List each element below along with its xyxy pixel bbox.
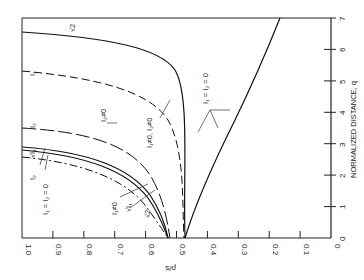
svg-text:5: 5	[338, 79, 347, 84]
svg-text:2: 2	[338, 173, 347, 178]
svg-text:0: 0	[338, 236, 347, 241]
rho-axis-label: ρ/s	[165, 264, 176, 273]
svg-text:0.9: 0.9	[54, 244, 63, 256]
svg-text:6: 6	[338, 47, 347, 52]
chart: 1.0 0.9 0.8 0.7 0.6 0.5 0.4 0.3 0.2 0.1 …	[0, 0, 364, 280]
svg-text:0: 0	[333, 244, 342, 249]
svg-text:4: 4	[338, 110, 347, 115]
svg-text:3: 3	[338, 142, 347, 147]
ann-I1: I₁	[28, 71, 37, 76]
svg-text:1.0: 1.0	[24, 244, 33, 256]
ann-I1-ne-0: I₁≠0	[110, 202, 119, 215]
curve-I1-eq-I2-eq-0	[185, 18, 280, 238]
ann-I1-eq-I2-eq-0-left: I₁ = I₂ = 0	[41, 184, 50, 215]
svg-text:0.7: 0.7	[116, 244, 125, 256]
svg-text:0.1: 0.1	[302, 244, 311, 256]
svg-text:0.2: 0.2	[271, 244, 280, 256]
ann-sqrtI1-low: √I₁	[124, 203, 133, 212]
q-axis-label: NORMALIZED DISTANCE, q	[349, 81, 358, 178]
ann-I1-ne-0-I2-ne-0: I₁≠0, I₂≠0	[145, 118, 154, 148]
ann-sqrtI1: √I₁	[28, 149, 37, 158]
ann-sqrt2-low: √2	[143, 210, 152, 218]
ann-I2-left: I₂	[28, 175, 37, 180]
rho-axis-ticks	[53, 231, 300, 238]
ann-I2-ne-0: I₂≠0	[99, 109, 108, 122]
svg-text:0.8: 0.8	[85, 244, 94, 256]
rho-axis-tick-labels: 1.0 0.9 0.8 0.7 0.6 0.5 0.4 0.3 0.2 0.1 …	[24, 244, 342, 256]
svg-text:7: 7	[338, 16, 347, 21]
ann-I2: I₂	[28, 123, 37, 128]
q-axis-ticks	[324, 18, 336, 207]
svg-text:1: 1	[338, 204, 347, 209]
q-axis-tick-labels: 0 1 2 3 4 5 6 7	[338, 16, 347, 241]
svg-text:0.5: 0.5	[178, 244, 187, 256]
svg-text:0.3: 0.3	[240, 244, 249, 256]
ann-I1-eq-I2-eq-0-right: I₁ = I₂ = 0	[201, 73, 210, 104]
ann-sqrt2-top: √2	[68, 24, 77, 32]
svg-text:0.4: 0.4	[209, 244, 218, 256]
svg-text:0.6: 0.6	[147, 244, 156, 256]
